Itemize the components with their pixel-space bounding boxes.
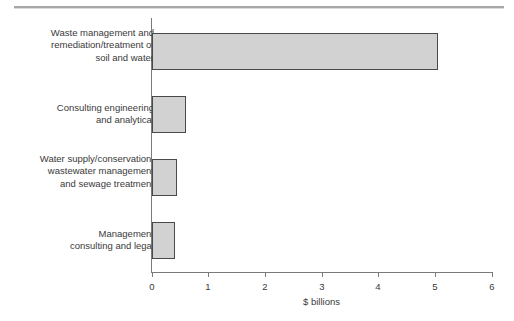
x-tick-label: 4: [366, 281, 390, 292]
bar-chart: Waste management and remediation/treatme…: [0, 0, 514, 321]
x-tick-mark: [378, 272, 379, 277]
category-label: Water supply/conservation, wastewater ma…: [0, 153, 154, 190]
x-tick-mark: [152, 272, 153, 277]
x-tick-mark: [492, 272, 493, 277]
x-tick-label: 5: [423, 281, 447, 292]
category-label: Management consulting and legal: [0, 228, 154, 253]
bar: [152, 159, 177, 196]
bar: [152, 33, 438, 70]
bar: [152, 96, 186, 133]
x-tick-label: 6: [480, 281, 504, 292]
category-label: Waste management and remediation/treatme…: [0, 27, 154, 64]
x-axis-title: $ billions: [151, 296, 492, 307]
x-tick-mark: [435, 272, 436, 277]
category-label: Consulting engineering and analytical: [0, 102, 154, 127]
x-tick-mark: [265, 272, 266, 277]
x-tick-label: 2: [253, 281, 277, 292]
x-tick-label: 3: [310, 281, 334, 292]
x-tick-mark: [208, 272, 209, 277]
x-tick-label: 1: [196, 281, 220, 292]
x-tick-mark: [322, 272, 323, 277]
bar: [152, 222, 175, 259]
x-tick-label: 0: [140, 281, 164, 292]
